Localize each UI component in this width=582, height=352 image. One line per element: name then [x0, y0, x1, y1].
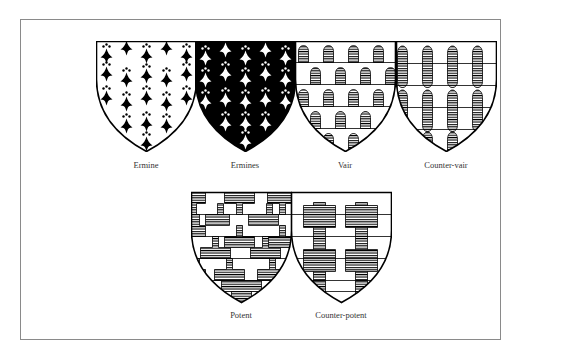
shield-ermines	[195, 41, 296, 152]
label-vair: Vair	[290, 160, 400, 170]
label-counter-potent: Counter-potent	[286, 310, 396, 320]
label-counter-vair: Counter-vair	[391, 160, 501, 170]
shield-vair	[295, 41, 396, 152]
label-ermines: Ermines	[190, 160, 300, 170]
shield-potent	[191, 191, 292, 304]
shield-counter-vair	[396, 41, 497, 152]
shield-ermine	[96, 41, 197, 152]
label-potent: Potent	[186, 310, 296, 320]
shield-counter-potent	[291, 191, 392, 304]
label-ermine: Ermine	[91, 160, 201, 170]
